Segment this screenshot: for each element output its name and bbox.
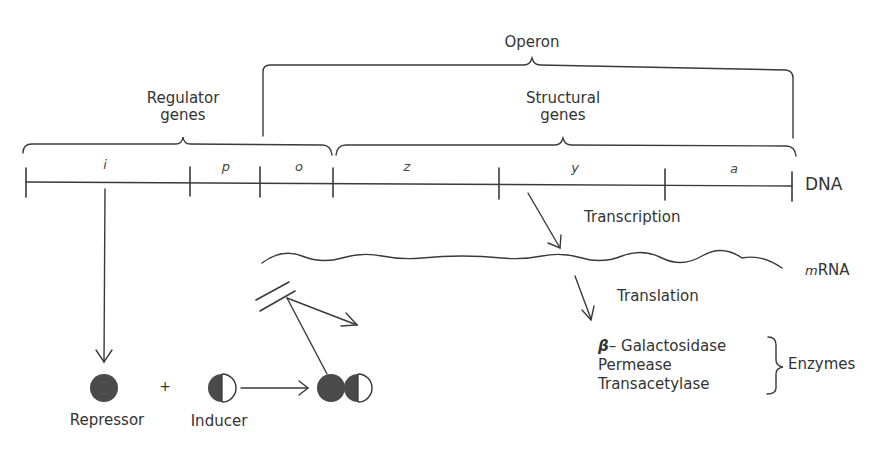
binding-arrow	[241, 381, 308, 395]
structural-genes-bracket	[336, 138, 796, 156]
regulator-genes-line2: genes	[147, 107, 220, 124]
enzyme-item: β– Galactosidase	[598, 337, 726, 356]
inducer-shape	[208, 374, 236, 402]
inactive-repressor-arrow	[287, 298, 357, 326]
gene-label-p: p	[222, 160, 230, 175]
operon-label: Operon	[504, 34, 559, 51]
repressor-inducer-complex	[317, 374, 372, 402]
plus-sign: +	[159, 378, 171, 394]
enzyme-name: – Galactosidase	[609, 337, 727, 355]
gene-label-y: y	[571, 161, 579, 176]
transcription-arrow	[528, 193, 561, 248]
regulator-genes-label: Regulator genes	[147, 90, 220, 125]
gene-label-z: z	[404, 160, 411, 175]
repressor-synthesis-arrow	[96, 189, 112, 362]
repressor-shape	[90, 374, 118, 402]
mrna-label-prefix: m	[805, 263, 818, 278]
gene-label-i: i	[103, 158, 107, 173]
mrna-label: mRNA	[805, 262, 850, 279]
blocked-binding-symbol	[256, 282, 295, 311]
complex-link-line	[287, 298, 327, 374]
translation-label: Translation	[617, 288, 699, 305]
beta-symbol: β	[598, 337, 609, 355]
dna-strand	[26, 182, 792, 186]
transcription-label: Transcription	[584, 209, 680, 226]
enzyme-item: Transacetylase	[598, 375, 726, 394]
regulator-genes-line1: Regulator	[147, 90, 220, 107]
dna-label: DNA	[805, 175, 842, 195]
inducer-label: Inducer	[191, 413, 248, 430]
enzyme-item: Permease	[598, 356, 726, 375]
operon-diagram	[0, 0, 886, 450]
translation-arrow	[575, 276, 594, 320]
enzyme-name: Transacetylase	[598, 375, 709, 393]
enzymes-brace	[767, 337, 783, 394]
mrna-label-suffix: RNA	[818, 261, 850, 279]
gene-label-a: a	[730, 162, 738, 177]
enzyme-name: Permease	[598, 356, 672, 374]
enzymes-label: Enzymes	[788, 356, 855, 373]
enzyme-list: β– Galactosidase Permease Transacetylase	[598, 337, 726, 394]
mrna-strand	[262, 250, 782, 268]
repressor-label: Repressor	[70, 412, 145, 429]
structural-genes-line1: Structural	[526, 90, 600, 107]
structural-genes-line2: genes	[526, 107, 600, 124]
structural-genes-label: Structural genes	[526, 90, 600, 125]
regulator-genes-bracket	[23, 137, 332, 155]
gene-label-o: o	[295, 160, 303, 175]
